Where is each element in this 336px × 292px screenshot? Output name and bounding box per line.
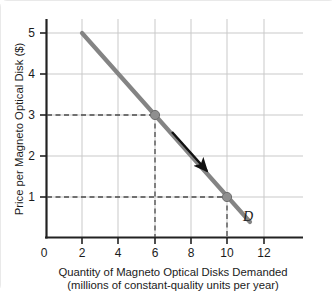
x-axis-title-line2: (millions of constant-quality units per … xyxy=(67,279,279,291)
data-point-marker-6-3 xyxy=(150,110,159,119)
x-tick-label-4: 4 xyxy=(115,246,122,260)
x-tick-label-6: 6 xyxy=(152,246,159,260)
data-point-marker-10-1 xyxy=(222,192,231,201)
y-tick-label-5: 5 xyxy=(28,26,35,40)
y-tick-label-3: 3 xyxy=(28,108,35,122)
y-tick-label-4: 4 xyxy=(28,67,35,81)
chart-canvas: 1 2 3 4 5 0 2 4 6 8 10 12 xyxy=(1,1,336,292)
chart-background xyxy=(1,1,336,292)
x-tick-label-12: 12 xyxy=(257,246,271,260)
y-axis-title: Price per Magneto Optical Disk ($) xyxy=(13,42,25,215)
demand-curve-figure: 1 2 3 4 5 0 2 4 6 8 10 12 xyxy=(0,0,336,292)
x-axis-title-line1: Quantity of Magneto Optical Disks Demand… xyxy=(58,266,287,278)
y-tick-label-2: 2 xyxy=(28,149,35,163)
y-tick-label-1: 1 xyxy=(28,190,35,204)
demand-curve-label: D xyxy=(242,209,253,224)
x-tick-label-10: 10 xyxy=(220,246,234,260)
x-tick-label-0: 0 xyxy=(41,246,48,260)
x-tick-label-8: 8 xyxy=(188,246,195,260)
x-tick-label-2: 2 xyxy=(79,246,86,260)
